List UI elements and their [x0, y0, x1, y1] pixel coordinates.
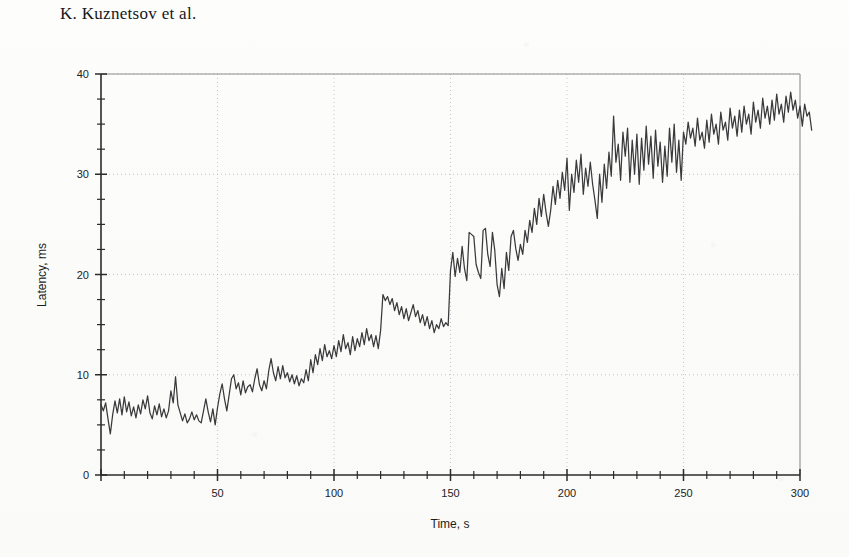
y-tick-label: 30: [77, 168, 89, 180]
x-axis-title: Time, s: [431, 517, 470, 531]
x-tick-label: 100: [325, 487, 343, 499]
x-tick-label: 150: [441, 487, 459, 499]
y-tick-label: 20: [77, 269, 89, 281]
y-tick-label: 0: [83, 469, 89, 481]
x-tick-label: 50: [211, 487, 223, 499]
y-axis-title: Latency, ms: [35, 243, 49, 307]
y-tick-label: 40: [77, 68, 89, 80]
x-tick-label: 250: [674, 487, 692, 499]
x-tick-label: 300: [791, 487, 809, 499]
x-tick-label: 200: [558, 487, 576, 499]
y-tick-label: 10: [77, 369, 89, 381]
latency-figure: 01020304050100150200250300 Time, s Laten…: [0, 0, 849, 557]
latency-series-line: [101, 92, 812, 434]
latency-line-chart: 01020304050100150200250300 Time, s Laten…: [0, 0, 849, 557]
